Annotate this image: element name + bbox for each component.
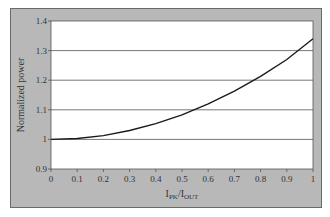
y-tick-label: 1.4 bbox=[36, 16, 48, 26]
x-axis-label: IPK/IOUT bbox=[166, 188, 200, 201]
x-tick-label: 1 bbox=[311, 174, 316, 184]
line-chart: 0.911.11.21.31.4 00.10.20.30.40.50.60.70… bbox=[0, 0, 330, 217]
x-tick-label: 0 bbox=[49, 174, 54, 184]
x-axis-ticks: 00.10.20.30.40.50.60.70.80.91 bbox=[49, 169, 316, 184]
y-axis-ticks: 0.911.11.21.31.4 bbox=[36, 16, 51, 174]
x-tick-label: 0.7 bbox=[229, 174, 241, 184]
y-tick-label: 1.3 bbox=[36, 46, 48, 56]
y-tick-label: 0.9 bbox=[36, 164, 48, 174]
x-tick-label: 0.8 bbox=[255, 174, 267, 184]
x-tick-label: 0.1 bbox=[72, 174, 83, 184]
y-tick-label: 1.2 bbox=[36, 75, 47, 85]
y-tick-label: 1 bbox=[43, 134, 48, 144]
x-tick-label: 0.3 bbox=[124, 174, 136, 184]
x-tick-label: 0.6 bbox=[203, 174, 215, 184]
y-tick-label: 1.1 bbox=[36, 105, 47, 115]
x-tick-label: 0.9 bbox=[281, 174, 293, 184]
plot-area bbox=[51, 21, 313, 169]
x-tick-label: 0.2 bbox=[98, 174, 109, 184]
x-tick-label: 0.5 bbox=[176, 174, 188, 184]
y-axis-label: Normalized power bbox=[15, 57, 26, 132]
x-tick-label: 0.4 bbox=[150, 174, 162, 184]
